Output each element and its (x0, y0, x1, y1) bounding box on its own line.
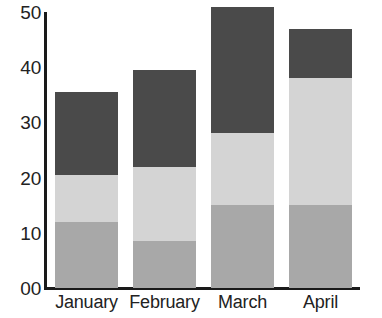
y-tick-label: 30 (1, 113, 41, 132)
bar-january (55, 92, 118, 288)
bar-segment-bottom-segment (133, 241, 196, 288)
y-tick-label: 20 (1, 169, 41, 188)
y-axis-tick-labels: 001020304050 (0, 0, 41, 318)
y-tick-label: 40 (1, 58, 41, 77)
bar-segment-top-segment (133, 70, 196, 167)
bar-segment-top-segment (55, 92, 118, 175)
plot-area (47, 12, 360, 288)
bar-segment-bottom-segment (211, 205, 274, 288)
x-axis-category-labels: JanuaryFebruaryMarchApril (47, 292, 360, 318)
y-tick-label: 10 (1, 224, 41, 243)
bar-segment-middle-segment (55, 175, 118, 222)
bar-segment-middle-segment (211, 133, 274, 205)
y-tick-label: 50 (1, 3, 41, 22)
stacked-bar-chart: 001020304050 JanuaryFebruaryMarchApril (0, 0, 382, 318)
bar-segment-middle-segment (133, 167, 196, 242)
bar-march (211, 7, 274, 289)
bar-segment-bottom-segment (55, 222, 118, 288)
bar-april (289, 29, 352, 288)
bar-february (133, 70, 196, 288)
bar-segment-middle-segment (289, 78, 352, 205)
x-tick-label-april: April (261, 292, 381, 314)
bar-segment-top-segment (289, 29, 352, 79)
bar-segment-top-segment (211, 7, 274, 134)
bar-segment-bottom-segment (289, 205, 352, 288)
